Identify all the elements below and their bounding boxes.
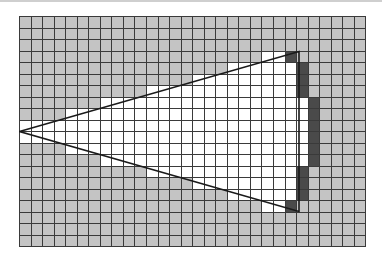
grid-cell-outside [124, 213, 136, 225]
grid-cell-outside [228, 236, 240, 248]
grid-cell-inside [239, 86, 251, 98]
grid-cell-outside [228, 52, 240, 64]
grid-cell-outside [274, 236, 286, 248]
grid-cell-inside [251, 86, 263, 98]
grid-cell-outside [20, 155, 32, 167]
grid-cell-outside [332, 236, 344, 248]
grid-cell-outside [228, 17, 240, 29]
grid-cell-inside [239, 121, 251, 133]
grid-cell-inside [101, 98, 113, 110]
grid-cell-inside [262, 132, 274, 144]
grid-cell-outside [43, 190, 55, 202]
grid-cell-boundary [309, 121, 321, 133]
grid-cell-boundary [297, 75, 309, 87]
grid-cell-outside [101, 213, 113, 225]
grid-cell-inside [274, 155, 286, 167]
grid-cell-outside [343, 98, 355, 110]
grid-cell-outside [216, 213, 228, 225]
grid-cell-outside [43, 29, 55, 41]
grid-cell-inside [124, 109, 136, 121]
grid-cell-inside [286, 144, 298, 156]
grid-cell-inside [216, 178, 228, 190]
grid-cell-outside [78, 29, 90, 41]
grid-cell-outside [43, 98, 55, 110]
grid-cell-outside [66, 17, 78, 29]
grid-cell-outside [135, 224, 147, 236]
grid-cell-outside [55, 155, 67, 167]
grid-cell-outside [32, 29, 44, 41]
grid-cell-outside [193, 17, 205, 29]
grid-cell-inside [216, 86, 228, 98]
grid-cell-outside [297, 17, 309, 29]
grid-cell-inside [262, 178, 274, 190]
grid-cell-outside [170, 40, 182, 52]
grid-cell-inside [274, 201, 286, 213]
grid-cell-outside [55, 144, 67, 156]
grid-cell-outside [205, 52, 217, 64]
grid-cell-outside [159, 224, 171, 236]
grid-cell-inside [112, 98, 124, 110]
grid-cell-boundary [286, 52, 298, 64]
grid-cell-inside [205, 75, 217, 87]
grid-cell-outside [78, 155, 90, 167]
grid-cell-outside [182, 75, 194, 87]
grid-cell-outside [274, 224, 286, 236]
grid-cell-outside [309, 201, 321, 213]
grid-cell-inside [228, 109, 240, 121]
grid-cell-inside [66, 109, 78, 121]
grid-cell-inside [66, 144, 78, 156]
grid-cell-outside [355, 178, 367, 190]
grid-cell-inside [101, 109, 113, 121]
grid-cell-inside [112, 109, 124, 121]
grid-cell-outside [216, 29, 228, 41]
grid-cell-inside [251, 144, 263, 156]
grid-cell-outside [286, 17, 298, 29]
grid-cell-outside [66, 29, 78, 41]
grid-cell-outside [78, 75, 90, 87]
grid-cell-outside [32, 236, 44, 248]
grid-cell-outside [66, 178, 78, 190]
grid-cell-outside [32, 190, 44, 202]
grid-cell-outside [89, 17, 101, 29]
grid-cell-inside [193, 155, 205, 167]
grid-cell-inside [205, 132, 217, 144]
grid-cell-inside [112, 132, 124, 144]
grid-cell-outside [147, 201, 159, 213]
grid-cell-outside [343, 75, 355, 87]
grid-cell-outside [78, 63, 90, 75]
grid-cell-inside [170, 121, 182, 133]
grid-cell-outside [193, 224, 205, 236]
grid-cell-outside [309, 63, 321, 75]
grid-cell-outside [309, 190, 321, 202]
grid-cell-inside [193, 132, 205, 144]
grid-cell-outside [297, 224, 309, 236]
grid-cell-outside [43, 201, 55, 213]
grid-cell-outside [228, 224, 240, 236]
grid-cell-outside [112, 63, 124, 75]
grid-cell-inside [239, 144, 251, 156]
grid-cell-inside [205, 167, 217, 179]
grid-cell-inside [182, 86, 194, 98]
grid-cell-outside [112, 40, 124, 52]
grid-cell-outside [147, 40, 159, 52]
grid-cell-outside [309, 40, 321, 52]
grid-cell-outside [20, 201, 32, 213]
grid-cell-inside [182, 155, 194, 167]
grid-cell-outside [147, 178, 159, 190]
grid-cell-outside [159, 52, 171, 64]
grid-cell-outside [32, 98, 44, 110]
grid-cell-outside [43, 236, 55, 248]
grid-cell-inside [124, 98, 136, 110]
grid-cell-inside [170, 132, 182, 144]
grid-cell-boundary [309, 98, 321, 110]
grid-cell-outside [112, 224, 124, 236]
grid-cell-outside [205, 63, 217, 75]
grid-cell-outside [170, 213, 182, 225]
grid-cell-outside [32, 167, 44, 179]
grid-cell-inside [170, 155, 182, 167]
grid-cell-outside [124, 86, 136, 98]
grid-cell-inside [216, 121, 228, 133]
grid-cell-outside [343, 190, 355, 202]
grid-cell-outside [355, 121, 367, 133]
grid-cell-inside [251, 155, 263, 167]
